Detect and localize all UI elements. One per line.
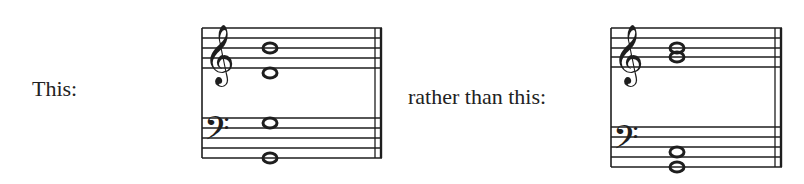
- bass-clef-icon: 𝄢: [204, 109, 230, 155]
- music-examples: 𝄞 𝄢 𝄞 𝄢: [0, 0, 804, 184]
- treble-clef-icon: 𝄞: [204, 24, 235, 87]
- bass-clef-icon: 𝄢: [613, 118, 639, 164]
- notes-avoided: [670, 43, 684, 172]
- treble-clef-icon: 𝄞: [613, 24, 644, 87]
- notes-preferred: [263, 43, 277, 163]
